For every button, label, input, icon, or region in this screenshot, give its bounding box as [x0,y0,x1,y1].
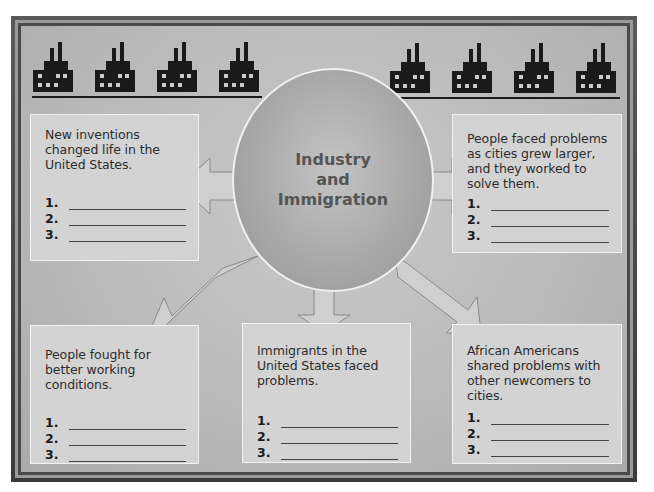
arrow-down-right-icon [395,256,481,333]
answer-row: 3. [45,226,188,242]
answer-blank[interactable] [281,417,398,428]
answer-blank[interactable] [491,414,609,425]
box-prompt: African Americans shared problems with o… [467,343,611,403]
box-african-americans: African Americans shared problems with o… [452,324,622,464]
answer-row: 2. [257,428,400,444]
item-number: 3. [467,228,491,243]
item-number: 2. [467,212,491,227]
answer-blank[interactable] [281,433,398,444]
answer-row: 2. [45,210,188,226]
item-number: 1. [45,415,69,430]
answer-blank[interactable] [69,231,186,242]
answer-blank[interactable] [69,419,186,430]
answer-row: 2. [45,430,188,446]
item-number: 1. [467,410,491,425]
answer-blank[interactable] [491,232,609,243]
answer-row: 1. [45,414,188,430]
item-number: 2. [45,211,69,226]
item-number: 3. [257,445,281,460]
answer-blank[interactable] [491,216,609,227]
box-prompt: New inventions changed life in the Unite… [45,127,188,172]
item-number: 3. [45,227,69,242]
answer-row: 2. [467,211,611,227]
central-topic-line1: Industry [278,150,388,170]
box-prompt: People faced problems as cities grew lar… [467,131,611,191]
item-number: 3. [467,442,491,457]
box-new-inventions: New inventions changed life in the Unite… [30,114,199,261]
answer-blank[interactable] [491,446,609,457]
answer-row: 1. [467,409,611,425]
answer-blank[interactable] [281,449,398,460]
central-topic: Industry and Immigration [232,68,434,292]
answer-blank[interactable] [69,435,186,446]
item-number: 1. [45,195,69,210]
box-working-conditions: People fought for better working conditi… [30,325,199,464]
answer-row: 3. [467,441,611,457]
answer-row: 2. [467,425,611,441]
item-number: 3. [45,447,69,462]
answer-row: 3. [257,444,400,460]
central-topic-line2: and [278,170,388,190]
answer-row: 1. [45,194,188,210]
box-cities-problems: People faced problems as cities grew lar… [452,114,622,253]
item-number: 2. [257,429,281,444]
item-number: 2. [467,426,491,441]
item-number: 1. [467,196,491,211]
box-prompt: People fought for better working conditi… [45,347,188,392]
answer-blank[interactable] [69,199,186,210]
answer-blank[interactable] [491,430,609,441]
diagram-stage: Industry and Immigration New inventions … [0,0,654,492]
answer-blank[interactable] [491,200,609,211]
answer-row: 3. [45,446,188,462]
box-prompt: Immigrants in the United States faced pr… [257,343,400,388]
answer-blank[interactable] [69,451,186,462]
answer-row: 1. [257,412,400,428]
answer-row: 3. [467,227,611,243]
item-number: 1. [257,413,281,428]
central-topic-line3: Immigration [278,190,388,210]
box-immigrants-problems: Immigrants in the United States faced pr… [242,323,411,463]
answer-blank[interactable] [69,215,186,226]
answer-row: 1. [467,195,611,211]
item-number: 2. [45,431,69,446]
